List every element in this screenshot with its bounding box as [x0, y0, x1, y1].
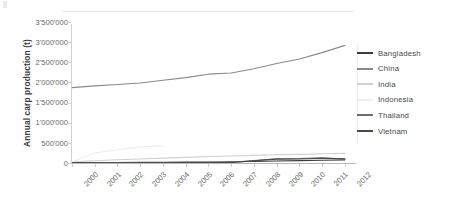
legend-item-india[interactable]: India: [357, 77, 396, 91]
x-tick-mark: [186, 164, 187, 167]
y-tick-label: 0: [20, 159, 68, 168]
y-tick-label: 1'500'000: [20, 98, 68, 107]
series-line: [72, 45, 345, 87]
x-axis-line: [71, 163, 356, 164]
y-tick-label: 1'000'000: [20, 118, 68, 127]
chart-figure: Annual carp production (t) 0500'0001'000…: [0, 0, 456, 220]
y-tick-label: 3'500'000: [20, 18, 68, 27]
x-tick-mark: [72, 164, 73, 167]
legend-swatch-icon: [357, 99, 373, 101]
y-tick-mark: [67, 123, 71, 124]
x-tick-label: 2001: [105, 170, 123, 188]
legend-item-label: China: [378, 64, 399, 73]
x-tick-mark: [277, 164, 278, 167]
chart-legend: BangladeshChinaIndiaIndonesiaThailandVie…: [357, 46, 453, 142]
legend-item-indonesia[interactable]: Indonesia: [357, 93, 413, 107]
chart-top-border: [62, 11, 354, 12]
legend-item-china[interactable]: China: [357, 62, 399, 76]
y-tick-label: 2'000'000: [20, 78, 68, 87]
legend-swatch-icon: [357, 68, 373, 70]
x-tick-label: 2010: [309, 170, 327, 188]
y-tick-mark: [67, 103, 71, 104]
legend-item-thailand[interactable]: Thailand: [357, 108, 409, 122]
legend-item-label: Indonesia: [378, 95, 413, 104]
x-tick-mark: [140, 164, 141, 167]
legend-swatch-icon: [357, 114, 373, 116]
x-tick-label: 2006: [218, 170, 236, 188]
x-tick-label: 2002: [127, 170, 145, 188]
legend-swatch-icon: [357, 130, 373, 132]
legend-item-bangladesh[interactable]: Bangladesh: [357, 46, 421, 60]
x-tick-mark: [299, 164, 300, 167]
y-tick-label: 3'000'000: [20, 38, 68, 47]
page-corner-artifact: [3, 1, 7, 8]
x-tick-mark: [163, 164, 164, 167]
legend-item-label: Bangladesh: [378, 49, 421, 58]
x-tick-mark: [231, 164, 232, 167]
y-tick-mark: [67, 82, 71, 83]
legend-swatch-icon: [357, 52, 373, 54]
legend-swatch-icon: [357, 83, 373, 85]
y-tick-label: 500'000: [20, 139, 68, 148]
series-lines: [72, 22, 354, 163]
x-tick-label: 2003: [150, 170, 168, 188]
y-tick-mark: [67, 143, 71, 144]
y-axis-tick-labels: 0500'0001'000'0001'500'0002'000'0002'500…: [20, 0, 68, 220]
x-tick-label: 2011: [332, 170, 350, 188]
x-tick-label: 2004: [173, 170, 191, 188]
x-tick-label: 2007: [241, 170, 259, 188]
x-tick-label: 2000: [82, 170, 100, 188]
x-tick-label: 2012: [355, 170, 373, 188]
y-tick-mark: [67, 62, 71, 63]
x-tick-mark: [322, 164, 323, 167]
x-tick-mark: [254, 164, 255, 167]
x-tick-label: 2008: [264, 170, 282, 188]
x-tick-mark: [345, 164, 346, 167]
y-tick-mark: [67, 42, 71, 43]
legend-item-vietnam[interactable]: Vietnam: [357, 124, 408, 138]
legend-item-label: Thailand: [378, 111, 409, 120]
y-tick-mark: [67, 22, 71, 23]
x-tick-label: 2009: [287, 170, 305, 188]
x-tick-label: 2005: [196, 170, 214, 188]
y-tick-label: 2'500'000: [20, 58, 68, 67]
x-tick-mark: [95, 164, 96, 167]
x-tick-mark: [208, 164, 209, 167]
legend-item-label: Vietnam: [378, 127, 408, 136]
legend-item-label: India: [378, 80, 396, 89]
plot-area: [72, 22, 354, 163]
y-tick-mark: [67, 163, 71, 164]
x-tick-mark: [117, 164, 118, 167]
